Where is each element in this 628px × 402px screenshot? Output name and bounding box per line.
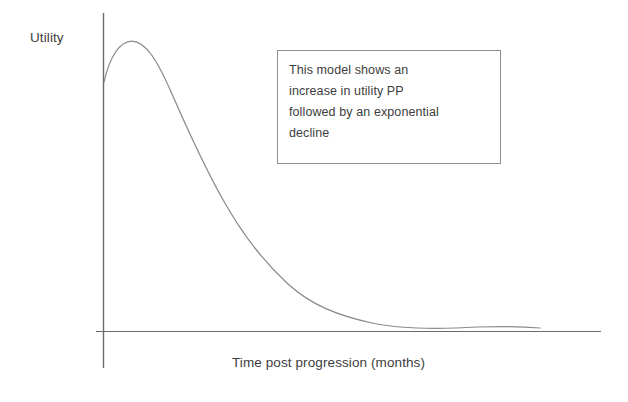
annotation-line-2: increase in utility PP xyxy=(289,81,500,102)
annotation-line-3: followed by an exponential xyxy=(289,102,500,123)
x-axis-label: Time post progression (months) xyxy=(232,355,425,370)
annotation-line-4: decline xyxy=(289,123,500,144)
y-axis-label: Utility xyxy=(30,30,64,45)
utility-decline-chart: Utility Time post progression (months) T… xyxy=(0,0,628,402)
annotation-textbox: This model shows an increase in utility … xyxy=(277,50,501,164)
annotation-line-1: This model shows an xyxy=(289,60,500,81)
